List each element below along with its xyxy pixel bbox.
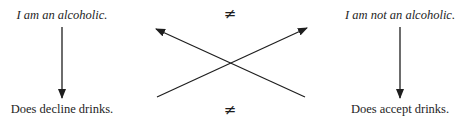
- left-belief-label: I am an alcoholic.: [17, 9, 108, 22]
- cross-arrow-to-right-belief: [157, 28, 307, 97]
- right-behavior-label: Does accept drinks.: [351, 103, 449, 116]
- right-belief-label: I am not an alcoholic.: [345, 9, 455, 22]
- alcoholic-belief-behavior-diagram: I am an alcoholic. Does decline drinks. …: [0, 0, 458, 123]
- not-equal-sign-bottom: ≠: [224, 103, 237, 118]
- left-behavior-label: Does decline drinks.: [11, 103, 113, 116]
- not-equal-sign-top: ≠: [224, 7, 237, 22]
